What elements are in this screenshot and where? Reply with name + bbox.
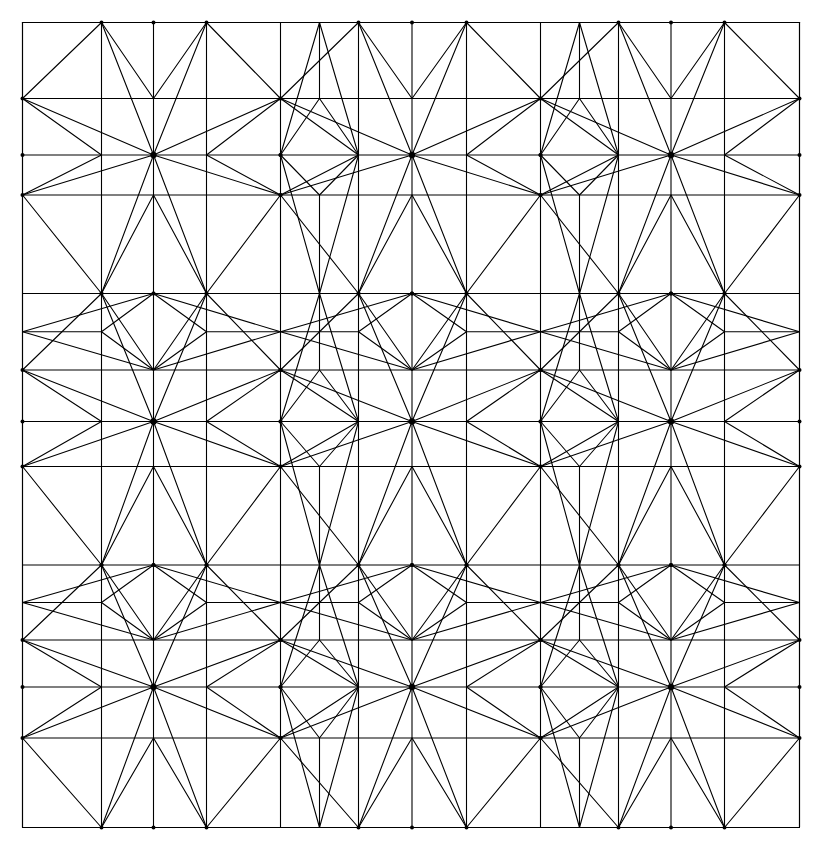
lattice-node-87 [465, 826, 469, 830]
lattice-node-61 [723, 292, 727, 296]
lattice-node-102 [798, 638, 802, 642]
lattice-node-13 [465, 21, 469, 25]
lattice-node-32 [669, 21, 673, 25]
lattice-node-29 [539, 193, 543, 197]
pattern-page [0, 0, 823, 861]
lattice-node-22 [279, 153, 283, 157]
lattice-node-56 [410, 292, 414, 296]
lattice-node-93 [410, 826, 414, 830]
lattice-node-52 [279, 368, 283, 372]
lattice-node-60 [617, 292, 621, 296]
lattice-node-66 [798, 368, 802, 372]
lattice-node-80 [152, 563, 156, 567]
star-center-node-10 [150, 418, 156, 424]
lattice-node-101 [539, 736, 543, 740]
lattice-node-31 [798, 193, 802, 197]
geometric-pattern-figure [0, 0, 823, 861]
star-center-node-01 [409, 152, 415, 158]
lattice-node-53 [279, 465, 283, 469]
lattice-node-10 [21, 153, 25, 157]
lattice-node-85 [465, 563, 469, 567]
lattice-node-105 [669, 826, 673, 830]
lattice-node-44 [152, 292, 156, 296]
lattice-node-67 [798, 465, 802, 469]
lattice-node-40 [21, 368, 25, 372]
star-center-node-21 [409, 684, 415, 690]
lattice-node-103 [798, 736, 802, 740]
lattice-node-77 [21, 736, 25, 740]
lattice-node-96 [617, 563, 621, 567]
lattice-node-86 [357, 826, 361, 830]
lattice-node-73 [205, 563, 209, 567]
star-center-node-11 [409, 418, 415, 424]
star-center-node-12 [668, 418, 674, 424]
star-center-node-02 [668, 152, 674, 158]
lattice-node-94 [279, 685, 283, 689]
lattice-node-92 [410, 563, 414, 567]
lattice-node-12 [357, 21, 361, 25]
lattice-node-49 [465, 292, 469, 296]
lattice-node-35 [798, 153, 802, 157]
lattice-node-36 [100, 292, 104, 296]
lattice-node-5 [21, 193, 25, 197]
lattice-node-58 [279, 420, 283, 424]
lattice-node-104 [669, 563, 673, 567]
lattice-node-74 [100, 826, 104, 830]
star-center-node-20 [150, 684, 156, 690]
lattice-node-99 [723, 826, 727, 830]
lattice-node-37 [205, 292, 209, 296]
lattice-node-84 [357, 563, 361, 567]
lattice-node-1 [205, 21, 209, 25]
lattice-node-0 [100, 21, 104, 25]
lattice-node-64 [539, 368, 543, 372]
lattice-node-30 [798, 97, 802, 101]
lattice-node-106 [539, 685, 543, 689]
star-center-node-00 [150, 152, 156, 158]
lattice-node-76 [21, 638, 25, 642]
lattice-node-72 [100, 563, 104, 567]
lattice-node-71 [798, 420, 802, 424]
lattice-node-48 [357, 292, 361, 296]
lattice-node-20 [410, 21, 414, 25]
lattice-node-70 [539, 420, 543, 424]
lattice-node-24 [617, 21, 621, 25]
star-center-node-22 [668, 684, 674, 690]
lattice-node-17 [279, 193, 283, 197]
lattice-node-98 [617, 826, 621, 830]
lattice-node-8 [152, 21, 156, 25]
lattice-node-89 [279, 736, 283, 740]
lattice-node-4 [21, 97, 25, 101]
lattice-node-100 [539, 638, 543, 642]
lattice-node-34 [539, 153, 543, 157]
lattice-node-82 [21, 685, 25, 689]
lattice-node-41 [21, 465, 25, 469]
lattice-node-28 [539, 97, 543, 101]
lattice-node-68 [669, 292, 673, 296]
lattice-node-107 [798, 685, 802, 689]
lattice-node-65 [539, 465, 543, 469]
lattice-node-88 [279, 638, 283, 642]
lattice-node-16 [279, 97, 283, 101]
lattice-node-25 [723, 21, 727, 25]
lattice-node-75 [205, 826, 209, 830]
lattice-node-81 [152, 826, 156, 830]
lattice-node-97 [723, 563, 727, 567]
lattice-node-46 [21, 420, 25, 424]
